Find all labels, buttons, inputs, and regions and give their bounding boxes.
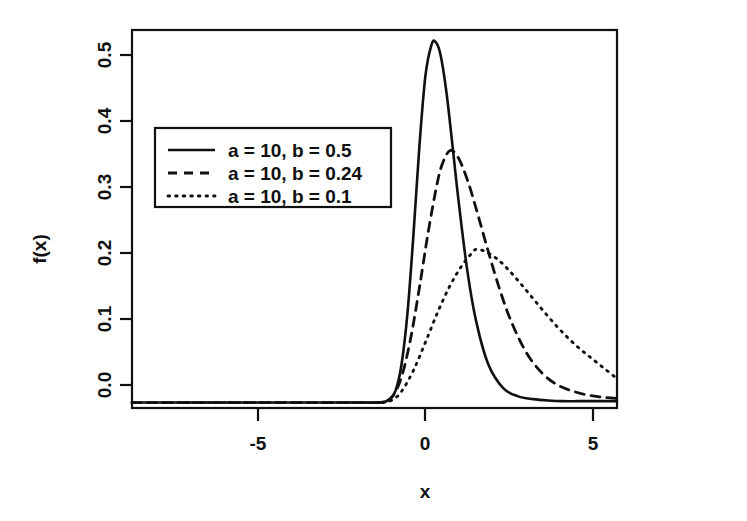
x-axis-title: x [420, 481, 431, 502]
y-axis-title: f(x) [29, 234, 50, 264]
legend-label-1: a = 10, b = 0.24 [228, 163, 363, 184]
y-tick-label-0.0: 0.0 [94, 372, 115, 398]
y-tick-label-0.5: 0.5 [94, 41, 115, 68]
y-tick-label-0.2: 0.2 [94, 240, 115, 266]
y-tick-label-0.4: 0.4 [94, 107, 115, 134]
legend-label-2: a = 10, b = 0.1 [228, 186, 352, 207]
legend: a = 10, b = 0.5 a = 10, b = 0.24 a = 10,… [155, 128, 391, 207]
legend-label-0: a = 10, b = 0.5 [228, 140, 352, 161]
x-tick-label-5: 5 [588, 433, 599, 454]
x-tick-label-0: 0 [420, 433, 431, 454]
y-tick-label-0.3: 0.3 [94, 174, 115, 200]
x-tick-label-minus5: -5 [250, 433, 267, 454]
figure-root: 0.5 0.4 0.3 0.2 0.1 0.0 -5 0 5 f(x) x [0, 0, 747, 521]
y-tick-label-0.1: 0.1 [94, 305, 115, 332]
density-plot-chart: 0.5 0.4 0.3 0.2 0.1 0.0 -5 0 5 f(x) x [0, 0, 747, 521]
